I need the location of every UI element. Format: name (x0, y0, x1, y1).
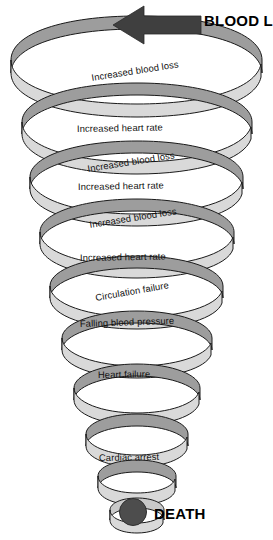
coil-label-10: Cardiac arrest (99, 451, 160, 463)
coil-label-2: Increased heart rate (77, 122, 163, 134)
blood-loss-spiral-diagram: Increased blood loss Increased heart rat… (0, 0, 273, 540)
death-label: DEATH (154, 505, 206, 522)
coil-label-7: Circulation failure (94, 279, 169, 303)
blood-loss-label: BLOOD LOSS (204, 12, 273, 29)
coil-label-1: Increased blood loss (91, 58, 180, 83)
coil-9-back-band (98, 460, 176, 488)
coil-label-4: Increased heart rate (78, 180, 164, 192)
coil-label-9: Heart failure (98, 368, 151, 380)
diagram-canvas: Increased blood loss Increased heart rat… (0, 0, 273, 540)
left-arrow-icon (113, 6, 201, 44)
filled-circle-marker (120, 499, 147, 526)
coil-label-6: Increased heart rate (80, 251, 166, 263)
